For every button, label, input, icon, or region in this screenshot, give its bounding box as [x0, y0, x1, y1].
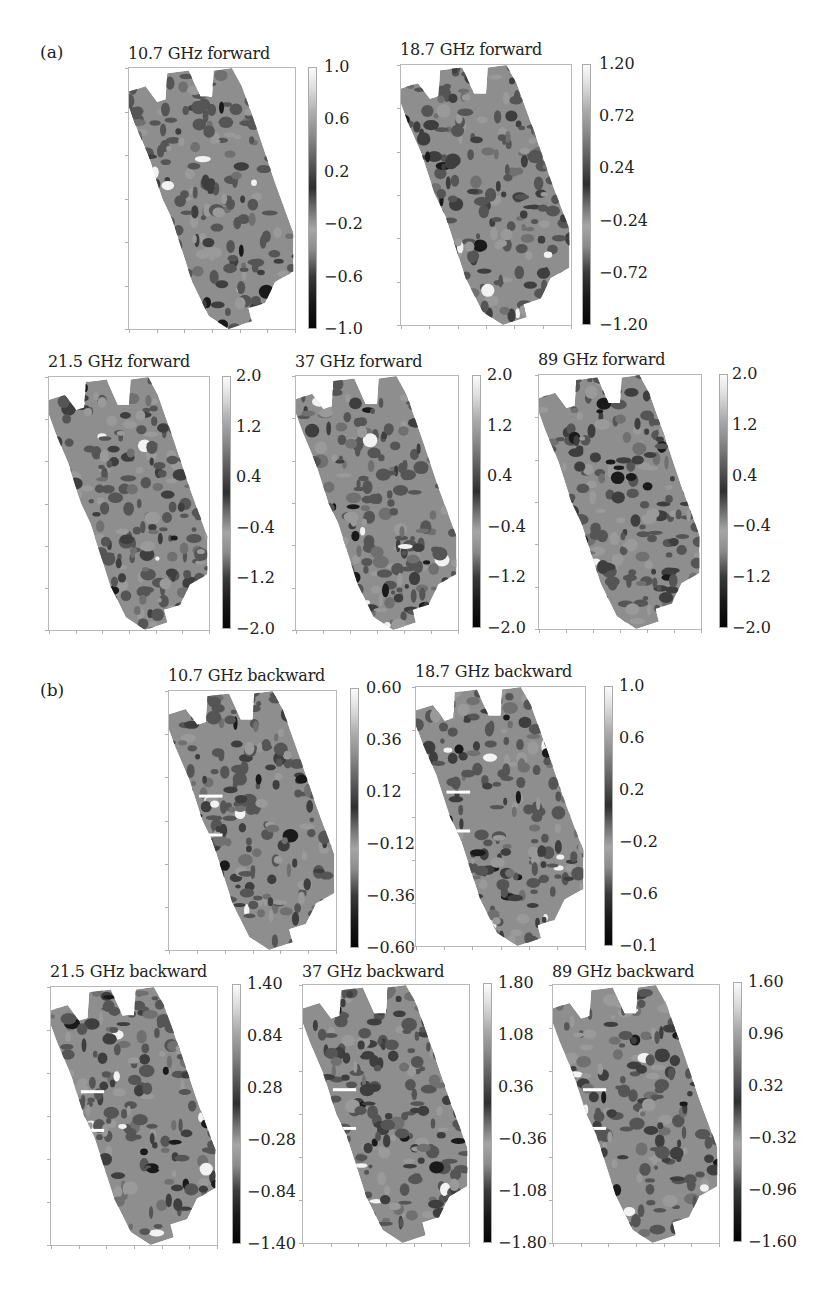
map-cell	[142, 567, 149, 572]
map-cell	[564, 1022, 570, 1030]
map-cell	[136, 425, 146, 434]
map-cell	[199, 494, 209, 502]
map-cell	[136, 467, 144, 473]
map-cell	[62, 414, 71, 423]
y-tick	[292, 630, 296, 631]
map-cell	[583, 569, 594, 576]
map-cell	[558, 1111, 569, 1122]
map-cell	[66, 1189, 80, 1198]
map-cell	[433, 1207, 449, 1218]
map-cell	[151, 416, 157, 426]
map-cell	[193, 874, 208, 886]
colorbar-tick-label: 0.4	[236, 469, 261, 485]
map-cell	[136, 411, 146, 421]
map-cell	[435, 223, 442, 234]
map-cell	[133, 527, 141, 535]
map-cell	[197, 834, 204, 841]
map-cell	[200, 68, 209, 73]
map-cell	[453, 1021, 465, 1033]
map-cell	[49, 498, 57, 507]
map-cell	[558, 935, 567, 940]
map-cell	[166, 218, 170, 227]
map-cell	[618, 1009, 632, 1018]
map-cell	[559, 704, 567, 715]
x-tick	[553, 1243, 554, 1247]
map-cell	[389, 508, 398, 516]
y-tick	[549, 1028, 553, 1029]
x-tick	[295, 329, 296, 333]
map-cell	[161, 159, 172, 165]
map-cell	[183, 608, 195, 619]
map-cell	[571, 408, 578, 413]
map-cell	[430, 295, 439, 308]
x-tick	[225, 950, 226, 954]
map-cell	[503, 714, 510, 720]
map-cell	[553, 1231, 561, 1242]
plot-area	[302, 984, 470, 1244]
map-cell	[564, 190, 571, 195]
map-cell	[411, 1056, 424, 1068]
map-cell	[427, 787, 439, 799]
map-cell	[457, 704, 470, 716]
map-cell	[559, 194, 571, 200]
map-cell	[619, 1031, 633, 1040]
plot-area	[538, 374, 702, 630]
map-cell	[360, 600, 370, 605]
map-cell	[179, 1089, 192, 1095]
map-cell	[114, 1071, 120, 1081]
map-cell	[181, 995, 189, 1004]
map-cell	[349, 398, 362, 410]
map-cell	[518, 758, 526, 771]
map-cell	[81, 529, 86, 536]
map-cell	[67, 586, 83, 598]
map-cell	[544, 267, 549, 276]
colorbar-tick-label: −1.60	[748, 1234, 797, 1250]
map-cell	[111, 576, 118, 587]
y-tick	[165, 907, 169, 908]
x-tick	[134, 1245, 135, 1249]
map-cell	[315, 792, 330, 803]
map-cell	[689, 464, 698, 476]
map-cell	[518, 126, 525, 130]
map-cell	[542, 459, 546, 470]
map-cell	[564, 610, 573, 623]
map-cell	[431, 79, 436, 89]
map-cell	[430, 709, 441, 723]
map-cell	[470, 176, 481, 189]
map-cell	[559, 986, 567, 1000]
map-cell	[173, 239, 182, 252]
map-cell	[474, 829, 488, 840]
map-cell	[148, 242, 157, 246]
map-cell	[685, 421, 698, 432]
map-cell	[623, 432, 632, 443]
map-cell	[148, 524, 156, 530]
map-cell	[99, 1170, 106, 1181]
map-cell	[123, 502, 134, 516]
map-cell	[436, 891, 450, 899]
map-cell	[585, 1215, 598, 1219]
map-cell	[58, 1238, 68, 1243]
map-cell	[426, 806, 438, 818]
map-cell	[687, 1029, 701, 1042]
map-cell	[201, 801, 212, 812]
map-cell	[606, 460, 616, 465]
map-cell	[191, 813, 201, 827]
colorbar-tick-label: 0.4	[487, 468, 512, 484]
map-cell	[104, 1107, 120, 1119]
map-cell	[396, 996, 402, 1002]
map-cell	[177, 1018, 183, 1023]
map-cell	[202, 504, 210, 511]
map-cell	[209, 1236, 215, 1245]
map-cell	[693, 1012, 698, 1021]
map-cell	[298, 891, 305, 904]
map-cell	[449, 608, 458, 621]
map-cell	[349, 596, 358, 606]
map-cell	[444, 84, 451, 89]
map-cell	[327, 897, 336, 906]
map-cell	[197, 549, 205, 554]
y-axis-ticks	[535, 375, 539, 629]
map-cell	[576, 1156, 583, 1161]
map-cell	[442, 704, 455, 709]
map-cell	[495, 930, 499, 941]
map-cell	[256, 69, 266, 80]
